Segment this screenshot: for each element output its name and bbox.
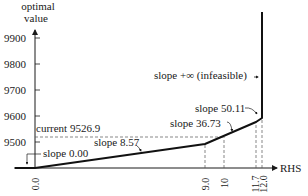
y-axis-label-line1: optimal xyxy=(21,0,55,12)
x-tick-0.0: 0.0 xyxy=(30,178,41,191)
x-tick-10: 10 xyxy=(219,178,230,188)
annotation-slope-0: slope 0.00 xyxy=(43,147,89,159)
y-tick-9700: 9700 xyxy=(4,84,27,96)
y-tick-9500: 9500 xyxy=(4,136,27,148)
annotation-current: current 9526.9 xyxy=(36,122,101,134)
sensitivity-chart: optimal value 9900 9800 9700 9600 9500 R… xyxy=(0,0,308,196)
x-tick-9.0: 9.0 xyxy=(200,178,211,191)
y-tick-9800: 9800 xyxy=(4,58,27,70)
y-tick-9900: 9900 xyxy=(4,32,27,44)
y-axis-label-line2: value xyxy=(24,12,48,24)
x-tick-12.0: 12.0 xyxy=(258,175,269,193)
x-axis-label: RHS xyxy=(280,162,301,174)
y-tick-9600: 9600 xyxy=(4,110,27,122)
annotation-slope-50: slope 50.11 xyxy=(195,102,245,114)
x-ticks: 0.0 9.0 10 11.7 12.0 xyxy=(30,175,269,193)
annotation-slope-infinite: slope +∞ (infeasible) xyxy=(154,69,247,82)
annotation-slope-8: slope 8.57 xyxy=(94,136,140,148)
annotation-slope-36: slope 36.73 xyxy=(170,117,221,129)
